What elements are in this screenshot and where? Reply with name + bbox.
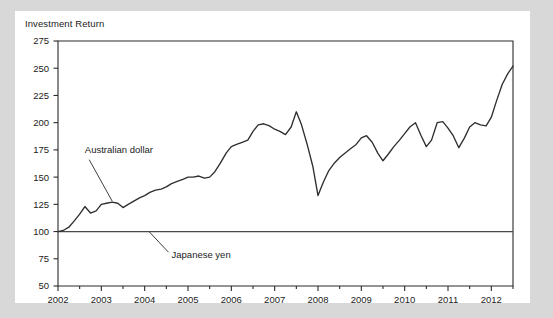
australian-dollar-annotation-label: Australian dollar (85, 144, 153, 155)
investment-return-line-chart: 5075100125150175200225250275 20022003200… (15, 11, 530, 303)
y-axis-tick-labels: 5075100125150175200225250275 (33, 35, 49, 291)
japanese-yen-annotation-leader-line (149, 232, 169, 253)
x-tick-label-2009: 2009 (351, 294, 372, 303)
x-tick-label-2012: 2012 (481, 294, 502, 303)
y-tick-label-275: 275 (33, 35, 49, 46)
x-tick-label-2005: 2005 (177, 294, 198, 303)
australian-dollar-annotation-leader-line (89, 160, 112, 201)
y-tick-label-50: 50 (38, 280, 49, 291)
x-tick-label-2002: 2002 (47, 294, 68, 303)
y-tick-label-175: 175 (33, 144, 49, 155)
y-tick-label-200: 200 (33, 117, 49, 128)
y-tick-label-150: 150 (33, 172, 49, 183)
annotations-group: Australian dollarJapanese yen (85, 144, 231, 260)
x-tick-label-2011: 2011 (438, 294, 458, 303)
y-tick-label-225: 225 (33, 90, 49, 101)
x-tick-label-2010: 2010 (394, 294, 415, 303)
y-tick-label-75: 75 (38, 253, 49, 264)
x-tick-label-2003: 2003 (91, 294, 112, 303)
x-tick-label-2006: 2006 (221, 294, 242, 303)
y-axis-tick-marks (54, 41, 59, 286)
x-tick-label-2008: 2008 (307, 294, 328, 303)
y-tick-label-125: 125 (33, 199, 49, 210)
x-tick-label-2004: 2004 (134, 294, 155, 303)
figure-card: Investment Return 5075100125150175200225… (15, 11, 530, 303)
x-axis-tick-marks (58, 286, 513, 291)
plot-frame (58, 41, 513, 286)
japanese-yen-annotation-label: Japanese yen (172, 249, 231, 260)
x-tick-label-2007: 2007 (264, 294, 285, 303)
x-axis-tick-labels: 2002200320042005200620072008200920102011… (47, 294, 501, 303)
y-tick-label-100: 100 (33, 226, 49, 237)
y-tick-label-250: 250 (33, 63, 49, 74)
